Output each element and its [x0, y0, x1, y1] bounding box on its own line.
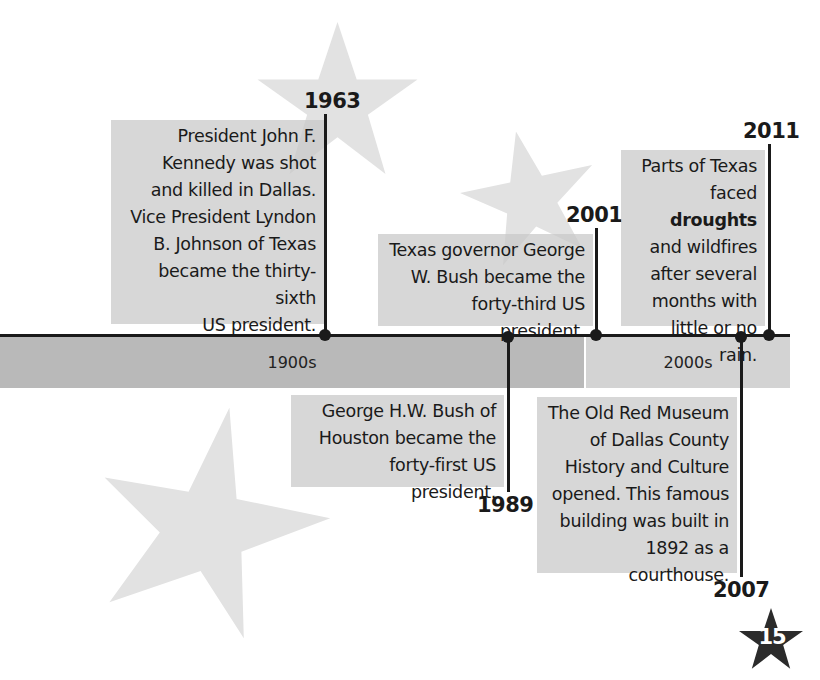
event-text-line: forty-third US president. [386, 291, 585, 345]
event-box-1963: President John F. Kennedy was shot and k… [111, 120, 324, 324]
event-text-line: Vice President Lyndon [119, 204, 316, 231]
event-line-2011 [768, 144, 771, 334]
event-dot-1963 [319, 329, 331, 341]
glossary-term-droughts: droughts [670, 210, 757, 230]
event-line-1989 [507, 337, 510, 492]
event-text-line: Kennedy was shot [119, 150, 316, 177]
event-text-line: President John F. [119, 123, 316, 150]
event-text-line: The Old Red Museum [545, 400, 729, 427]
event-text-line: forty-first US president. [299, 452, 496, 506]
event-dot-2001 [590, 329, 602, 341]
event-text-line: W. Bush became the [386, 264, 585, 291]
event-text-line: 1892 as a courthouse. [545, 535, 729, 589]
event-text-line: History and Culture [545, 454, 729, 481]
event-text-line: after several [629, 261, 757, 288]
event-text-line: opened. This famous [545, 481, 729, 508]
year-label-1989: 1989 [477, 493, 533, 517]
event-text-line: US president. [119, 312, 316, 339]
event-text-fragment: faced [710, 183, 757, 203]
year-label-2001: 2001 [566, 203, 622, 227]
event-text-line: building was built in [545, 508, 729, 535]
event-box-1989: George H.W. Bush of Houston became the f… [291, 395, 504, 487]
event-text-line: George H.W. Bush of [299, 398, 496, 425]
event-text-line: months with [629, 288, 757, 315]
event-text-line: little or no rain. [629, 315, 757, 369]
event-text-line: faced droughts [629, 180, 757, 234]
event-text-line: Houston became the [299, 425, 496, 452]
event-text-line: became the thirty-sixth [119, 258, 316, 312]
event-text-line: Texas governor George [386, 237, 585, 264]
event-line-2001 [595, 228, 598, 334]
event-box-2011: Parts of Texas faced droughts and wildfi… [621, 150, 765, 326]
event-dot-2011 [763, 329, 775, 341]
event-text-line: of Dallas County [545, 427, 729, 454]
year-label-1963: 1963 [304, 89, 360, 113]
event-text-line: B. Johnson of Texas [119, 231, 316, 258]
era-label-1900s: 1900s [267, 353, 316, 372]
event-text-line: and wildfires [629, 234, 757, 261]
event-box-2001: Texas governor George W. Bush became the… [378, 234, 593, 326]
event-line-1963 [324, 114, 327, 334]
event-text-line: Parts of Texas [629, 153, 757, 180]
year-label-2011: 2011 [743, 119, 799, 143]
event-box-2007: The Old Red Museum of Dallas County Hist… [537, 397, 737, 573]
event-line-2007 [740, 337, 743, 577]
event-text-line: and killed in Dallas. [119, 177, 316, 204]
page-number: 15 [755, 625, 789, 649]
year-label-2007: 2007 [713, 578, 769, 602]
